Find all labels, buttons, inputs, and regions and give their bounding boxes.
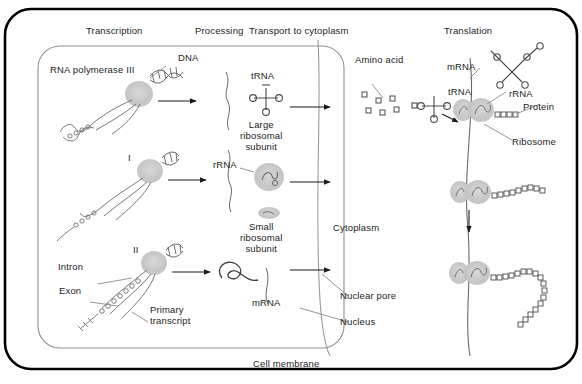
- label-rrna-nucleus: rRNA: [213, 159, 237, 170]
- label-primary-transcript: Primary transcript: [150, 304, 191, 326]
- diagram-vector-layer: [0, 0, 582, 384]
- label-rna-polymerase-i: I: [128, 152, 131, 163]
- label-dna: DNA: [178, 52, 199, 63]
- label-trna-nucleus: tRNA: [251, 70, 274, 81]
- label-cytoplasm: Cytoplasm: [333, 222, 379, 233]
- label-trna-cytoplasm: tRNA: [448, 86, 471, 97]
- label-rna-polymerase-ii: II: [133, 244, 139, 255]
- label-exon: Exon: [59, 285, 81, 296]
- label-amino-acid: Amino acid: [355, 54, 404, 65]
- small-ribosomal-subunit-icon: [258, 207, 280, 219]
- label-mrna-translation: mRNA: [447, 61, 476, 72]
- label-cell-membrane: Cell membrane: [253, 358, 319, 369]
- rna-polymerase-iii-blob: [125, 81, 153, 107]
- label-rna-polymerase-iii: RNA polymerase III: [50, 64, 135, 75]
- header-processing: Processing: [195, 25, 244, 36]
- label-ribosome: Ribosome: [512, 136, 556, 147]
- large-ribosomal-subunit-icon: [254, 163, 284, 191]
- header-translation: Translation: [444, 25, 492, 36]
- header-transport: Transport to cytoplasm: [249, 25, 349, 36]
- label-nuclear-pore: Nuclear pore: [340, 290, 396, 301]
- label-small-ribosomal-subunit: Small ribosomal subunit: [240, 221, 283, 254]
- label-intron: Intron: [58, 261, 83, 272]
- label-rrna-translation: rRNA: [509, 88, 533, 99]
- label-large-ribosomal-subunit: Large ribosomal subunit: [240, 119, 283, 152]
- figure-canvas: Transcription Processing Transport to cy…: [0, 0, 582, 384]
- label-mrna-nucleus: mRNA: [252, 297, 281, 308]
- cell-membrane-border: [5, 9, 577, 369]
- label-nucleus: Nucleus: [340, 316, 375, 327]
- label-protein: Protein: [523, 101, 554, 112]
- header-transcription: Transcription: [86, 25, 143, 36]
